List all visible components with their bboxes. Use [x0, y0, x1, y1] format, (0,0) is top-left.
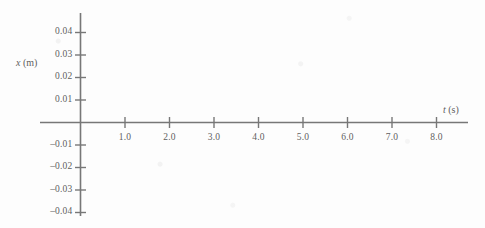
- y-axis-unit: (m): [23, 57, 37, 68]
- x-tick-label: 8.0: [421, 132, 453, 142]
- y-tick-label: 0.01: [39, 94, 73, 104]
- y-axis-title: x (m): [16, 57, 37, 68]
- axis-lines: [40, 13, 468, 216]
- y-tick-label: –0.04: [39, 206, 73, 216]
- x-tick-label: 1.0: [109, 132, 141, 142]
- graph-figure: 0.040.030.020.01–0.01–0.02–0.03–0.04 1.0…: [0, 0, 485, 228]
- y-tick-label: 0.02: [39, 71, 73, 81]
- y-tick-label: –0.02: [39, 161, 73, 171]
- x-tick-label: 7.0: [376, 132, 408, 142]
- y-tick-label: 0.04: [39, 26, 73, 36]
- x-tick-label: 4.0: [243, 132, 275, 142]
- y-tick-label: –0.03: [39, 184, 73, 194]
- y-tick-label: 0.03: [39, 49, 73, 59]
- x-tick-label: 2.0: [154, 132, 186, 142]
- x-tick-label: 6.0: [332, 132, 364, 142]
- x-axis-unit: (s): [448, 104, 459, 115]
- y-tick-label: –0.01: [39, 139, 73, 149]
- x-axis-title: t (s): [443, 104, 459, 115]
- x-tick-label: 5.0: [287, 132, 319, 142]
- x-tick-label: 3.0: [198, 132, 230, 142]
